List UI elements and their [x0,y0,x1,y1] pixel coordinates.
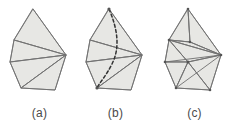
interior-vertex-c [187,61,190,64]
mesh-diagram-b [76,0,155,100]
mesh-faces-c [165,9,221,90]
right-hub-vertex-c [220,54,223,57]
face-c-1 [169,9,190,42]
geodesic-endpoint-top [107,7,110,10]
bottom-vertex-c [209,89,212,92]
figure-panel-b: (b) [76,0,155,124]
caption-a: (a) [0,106,79,120]
figure-panel-a: (a) [0,0,79,124]
geodesic-endpoint-bottom [95,86,98,89]
apex-vertex-c [187,8,190,11]
caption-c: (c) [155,106,234,120]
mesh-diagram-c [155,0,234,100]
upper-left-vertex-c [168,39,171,42]
lower-left-vertex-c [175,87,178,90]
triangulated-surface-figure: (a) (b) [0,0,238,124]
upper-mid-vertex-c [189,41,192,44]
mesh-diagram-a [0,0,79,100]
mid-left-vertex-c [164,61,167,64]
caption-b: (b) [76,106,155,120]
figure-panel-c: (c) [155,0,234,124]
mesh-faces-a [10,9,66,90]
